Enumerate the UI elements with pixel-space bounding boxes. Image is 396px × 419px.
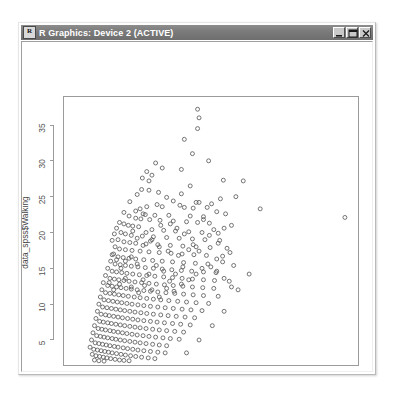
close-button[interactable] (359, 27, 371, 38)
data-point (142, 319, 146, 323)
data-point (150, 228, 154, 232)
data-point (129, 233, 133, 237)
data-point (151, 258, 155, 262)
data-point (110, 269, 114, 273)
data-point (216, 231, 220, 235)
r-logo-icon: R (23, 26, 36, 39)
data-point (166, 314, 170, 318)
data-point (144, 342, 148, 346)
data-point (143, 266, 147, 270)
data-point (201, 278, 205, 282)
data-point (112, 288, 116, 292)
data-point (190, 152, 194, 156)
data-point (151, 297, 155, 301)
data-point (182, 137, 186, 141)
data-point (200, 309, 204, 313)
data-point (234, 195, 238, 199)
data-point (258, 207, 262, 211)
data-point (131, 347, 135, 351)
data-point (112, 292, 116, 296)
data-point (100, 288, 104, 292)
data-point (208, 246, 212, 250)
data-point (128, 200, 132, 204)
data-point (151, 327, 155, 331)
data-point (178, 203, 182, 207)
window-title-bar[interactable]: R R Graphics: Device 2 (ACTIVE) (21, 25, 373, 40)
data-point (224, 212, 228, 216)
data-point (115, 300, 119, 304)
data-point (160, 166, 164, 170)
data-point (139, 311, 143, 315)
data-point (182, 330, 186, 334)
data-point (134, 209, 138, 213)
data-point (168, 337, 172, 341)
data-point (191, 243, 195, 247)
data-point (148, 304, 152, 308)
data-point (128, 309, 132, 313)
data-point (193, 261, 197, 265)
data-point (171, 306, 175, 310)
data-point (216, 294, 220, 298)
data-point (142, 289, 146, 293)
data-point (183, 315, 187, 319)
data-point (138, 249, 142, 253)
data-point (92, 324, 96, 328)
data-point (204, 253, 208, 257)
data-point (179, 192, 183, 196)
data-point (182, 232, 186, 236)
minimize-button[interactable] (333, 27, 345, 38)
data-point (229, 285, 233, 289)
data-point (109, 357, 113, 361)
data-point (212, 228, 216, 232)
data-point (131, 229, 135, 233)
data-point (118, 282, 122, 286)
scatter-plot: 050100150200250300350data_spss$Success51… (22, 42, 372, 371)
data-point (154, 335, 158, 339)
data-point (116, 315, 120, 319)
data-point (102, 298, 106, 302)
data-point (156, 305, 160, 309)
data-point (108, 276, 112, 280)
data-point (164, 291, 168, 295)
data-point (157, 343, 161, 347)
data-point (136, 348, 140, 352)
data-point (203, 238, 207, 242)
data-point (105, 356, 109, 360)
data-point (123, 232, 127, 236)
data-point (227, 279, 231, 283)
data-point (131, 224, 135, 228)
data-point (162, 275, 166, 279)
data-point (95, 348, 99, 352)
data-point (165, 236, 169, 240)
data-point (123, 324, 127, 328)
data-point (221, 254, 225, 258)
minimize-icon (334, 28, 346, 39)
data-point (97, 359, 101, 363)
data-point (119, 231, 123, 235)
data-point (343, 215, 347, 219)
data-point (95, 309, 99, 313)
data-point (118, 323, 122, 327)
data-point (88, 345, 92, 349)
data-point (123, 339, 127, 343)
data-point (187, 230, 191, 234)
data-point (101, 342, 105, 346)
data-point (197, 249, 201, 253)
data-point (124, 286, 128, 290)
data-point (136, 303, 140, 307)
data-point (101, 281, 105, 285)
data-point (182, 205, 186, 209)
data-point (99, 312, 103, 316)
data-point (148, 218, 152, 222)
data-point (116, 345, 120, 349)
data-point (194, 272, 198, 276)
maximize-button[interactable] (346, 27, 358, 38)
data-point (165, 286, 169, 290)
data-point (221, 260, 225, 264)
data-point (201, 286, 205, 290)
data-point (127, 279, 131, 283)
data-point (168, 222, 172, 226)
data-point (185, 351, 189, 355)
data-point (122, 240, 126, 244)
data-point (101, 305, 105, 309)
